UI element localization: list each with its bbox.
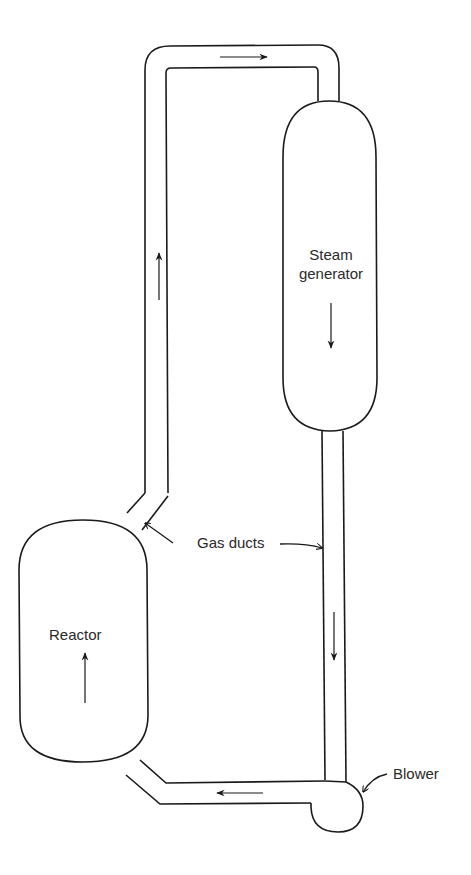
blower-housing — [311, 782, 363, 832]
gas-ducts-leader-right — [280, 544, 322, 548]
blower-leader — [363, 774, 387, 792]
reactor-label: Reactor — [49, 625, 102, 644]
blower-label: Blower — [393, 764, 439, 783]
steam-generator-label-line2: generator — [290, 264, 372, 283]
right-duct-left-wall — [322, 431, 325, 780]
upper-duct-angle-inner — [142, 496, 168, 530]
upper-duct-angle-outer — [127, 493, 145, 513]
flow-diagram — [0, 0, 471, 875]
gas-ducts-label: Gas ducts — [197, 533, 265, 552]
right-duct-right-wall — [343, 431, 346, 782]
lower-duct-top-wall — [140, 760, 325, 783]
lower-duct-bottom-wall — [126, 775, 311, 804]
steam-generator-label: Steam generator — [290, 245, 372, 283]
gas-ducts-leader-left — [145, 523, 173, 543]
steam-generator-label-line1: Steam — [290, 245, 372, 264]
